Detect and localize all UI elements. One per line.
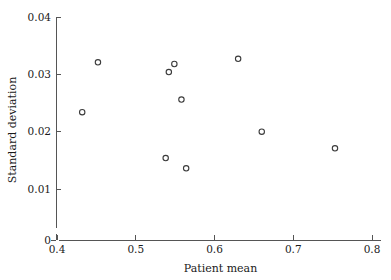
- y-tick-label-1: 0.01: [28, 183, 51, 195]
- y-axis-title: Standard deviation: [6, 77, 19, 183]
- data-point: [259, 129, 264, 134]
- x-tick-label-3: 0.7: [285, 243, 302, 255]
- data-point: [179, 97, 184, 102]
- data-point: [332, 146, 337, 151]
- x-tick-label-0: 0.4: [49, 243, 66, 255]
- x-tick-label-1: 0.5: [127, 243, 144, 255]
- data-point: [235, 56, 240, 61]
- x-axis-title: Patient mean: [184, 262, 258, 275]
- data-point: [172, 61, 177, 66]
- data-point: [95, 60, 100, 65]
- y-tick-label-4: 0.04: [28, 11, 52, 23]
- x-tick-label-4: 0.8: [364, 243, 381, 255]
- scatter-plot-figure: 00.010.020.030.040.40.50.60.70.8Patient …: [0, 0, 391, 280]
- data-point: [80, 109, 85, 114]
- y-tick-label-3: 0.03: [28, 68, 51, 80]
- y-tick-label-2: 0.02: [28, 125, 51, 137]
- data-point: [183, 166, 188, 171]
- plot-canvas: 00.010.020.030.040.40.50.60.70.8Patient …: [0, 0, 391, 280]
- x-tick-label-2: 0.6: [206, 243, 223, 255]
- data-point: [163, 155, 168, 160]
- data-point: [166, 69, 171, 74]
